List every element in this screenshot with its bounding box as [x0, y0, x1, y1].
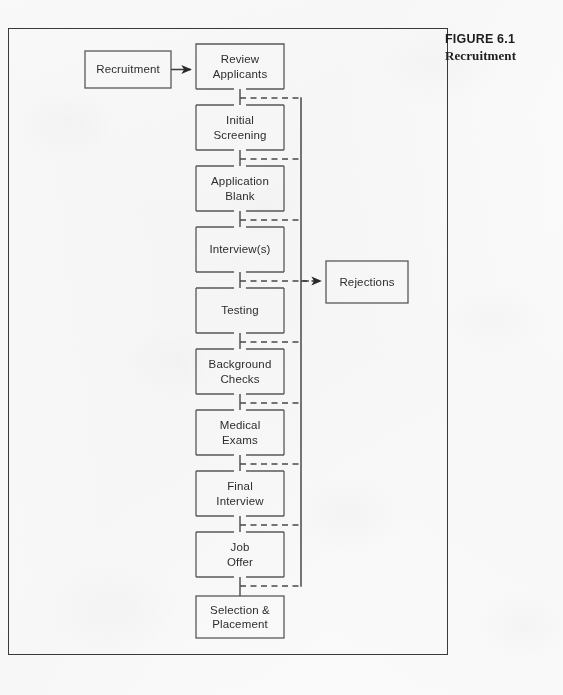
node-interviews-label: Interview(s): [209, 242, 270, 256]
node-review-applicants[interactable]: Review Applicants: [196, 44, 284, 89]
node-medical-exams[interactable]: Medical Exams: [196, 410, 284, 455]
figure-title: Recruitment: [445, 48, 553, 65]
node-final-interview[interactable]: Final Interview: [196, 471, 284, 516]
node-selection-placement[interactable]: Selection & Placement: [196, 596, 284, 638]
node-background-checks-label: Background Checks: [209, 357, 272, 386]
node-initial-screening-label: Initial Screening: [213, 113, 266, 142]
node-initial-screening[interactable]: Initial Screening: [196, 105, 284, 150]
node-testing[interactable]: Testing: [196, 288, 284, 333]
node-selection-placement-label: Selection & Placement: [210, 603, 270, 632]
node-job-offer[interactable]: Job Offer: [196, 532, 284, 577]
node-application-blank-label: Application Blank: [211, 174, 269, 203]
node-testing-label: Testing: [221, 303, 259, 317]
node-medical-exams-label: Medical Exams: [220, 418, 261, 447]
node-background-checks[interactable]: Background Checks: [196, 349, 284, 394]
figure-number: FIGURE 6.1: [445, 32, 553, 48]
figure-page: Recruitment Review Applicants Initial Sc…: [0, 0, 563, 695]
node-rejections[interactable]: Rejections: [326, 261, 408, 303]
node-job-offer-label: Job Offer: [227, 540, 253, 569]
node-recruitment-label: Recruitment: [96, 62, 160, 76]
node-interviews[interactable]: Interview(s): [196, 227, 284, 272]
node-review-applicants-label: Review Applicants: [213, 52, 268, 81]
node-application-blank[interactable]: Application Blank: [196, 166, 284, 211]
figure-caption: FIGURE 6.1 Recruitment: [445, 32, 553, 65]
node-rejections-label: Rejections: [339, 275, 394, 289]
node-recruitment[interactable]: Recruitment: [85, 51, 171, 88]
node-final-interview-label: Final Interview: [216, 479, 263, 508]
